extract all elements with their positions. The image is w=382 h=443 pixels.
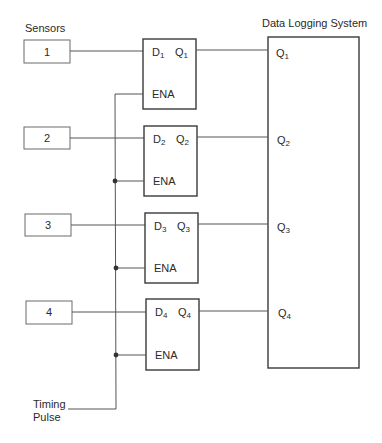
sensors-heading: Sensors xyxy=(25,22,65,34)
junction-dot-2 xyxy=(113,179,118,184)
dls-input-q4: Q4 xyxy=(278,307,291,319)
dls-input-q3: Q3 xyxy=(277,221,290,233)
latch-2-ena-label: ENA xyxy=(153,175,176,187)
latch-2-q-label: Q2 xyxy=(176,133,189,145)
sensor-4-label: 4 xyxy=(26,306,72,318)
latch-3-ena-label: ENA xyxy=(154,262,177,274)
timing-pulse-bus xyxy=(68,94,143,409)
latch-4-d-label: D4 xyxy=(155,306,167,318)
latch-1-ena-label: ENA xyxy=(152,88,175,100)
dls-input-q1: Q1 xyxy=(276,47,289,59)
latch-2-d-label: D2 xyxy=(153,133,165,145)
data-logging-diagram: Sensors Data Logging System 1 2 3 4 D1 Q… xyxy=(0,0,382,443)
dls-input-q2: Q2 xyxy=(277,134,290,146)
latch-4-q-label: Q4 xyxy=(178,306,191,318)
junction-dot-4 xyxy=(114,353,119,358)
latch-3-q-label: Q3 xyxy=(177,220,190,232)
timing-label-line1: Timing xyxy=(33,398,66,410)
latch-3-d-label: D3 xyxy=(154,220,166,232)
latch-4-ena-label: ENA xyxy=(155,349,178,361)
latch-1-q-label: Q1 xyxy=(175,46,188,58)
timing-label-line2: Pulse xyxy=(33,411,61,423)
latch-1-d-label: D1 xyxy=(152,46,164,58)
sensor-2-label: 2 xyxy=(24,132,70,144)
sensor-3-label: 3 xyxy=(25,219,71,231)
junction-dot-3 xyxy=(114,266,119,271)
data-logging-system-title: Data Logging System xyxy=(262,17,367,29)
sensor-1-label: 1 xyxy=(24,46,70,58)
